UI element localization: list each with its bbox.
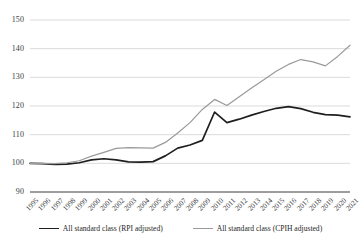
legend-swatch-icon (39, 228, 59, 229)
legend-item[interactable]: All standard class (RPI adjusted) (39, 224, 163, 233)
y-tick-label: 130 (2, 72, 24, 81)
legend-item[interactable]: All standard class (CPIH adjusted) (193, 224, 322, 233)
legend-label: All standard class (RPI adjusted) (63, 224, 163, 233)
y-tick-label: 140 (2, 44, 24, 53)
series-lines (30, 45, 350, 164)
legend-swatch-icon (193, 228, 213, 229)
y-tick-label: 120 (2, 101, 24, 110)
line-chart: 15014013012011010090 1995199619971998199… (0, 0, 361, 245)
y-tick-label: 100 (2, 158, 24, 167)
y-tick-label: 90 (2, 187, 24, 196)
series-line (30, 107, 350, 165)
y-tick-label: 150 (2, 15, 24, 24)
chart-legend: All standard class (RPI adjusted)All sta… (0, 224, 361, 233)
y-tick-label: 110 (2, 130, 24, 139)
legend-label: All standard class (CPIH adjusted) (217, 224, 322, 233)
gridlines (30, 20, 350, 192)
